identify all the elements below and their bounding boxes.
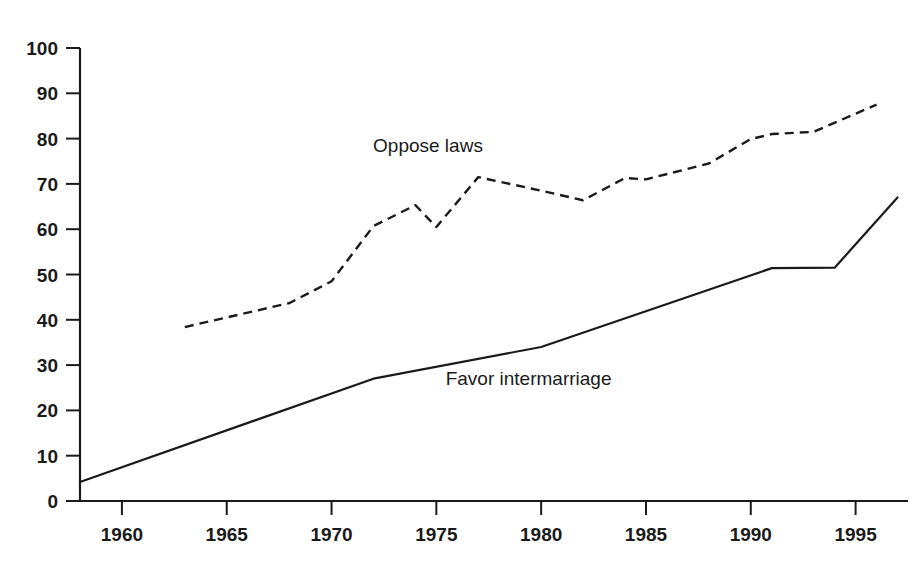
y-tick-label: 50 xyxy=(37,265,58,286)
y-tick-label: 70 xyxy=(37,174,58,195)
series-annotations: Oppose lawsFavor intermarriage xyxy=(373,135,611,389)
y-tick-label: 60 xyxy=(37,219,58,240)
series-line-favor-intermarriage xyxy=(80,197,898,481)
y-tick-label: 20 xyxy=(37,400,58,421)
series-line-oppose-laws xyxy=(185,105,877,327)
y-tick-labels: 0102030405060708090100 xyxy=(26,38,58,512)
y-tick-label: 40 xyxy=(37,310,58,331)
x-tick-labels: 19601965197019751980198519901995 xyxy=(101,524,877,545)
plot-area xyxy=(80,105,898,482)
x-tick-label: 1980 xyxy=(520,524,562,545)
x-tick-label: 1960 xyxy=(101,524,143,545)
x-tick-label: 1970 xyxy=(310,524,352,545)
x-tick-label: 1985 xyxy=(625,524,668,545)
x-tick-marks xyxy=(122,501,856,515)
y-tick-label: 10 xyxy=(37,446,58,467)
x-axis: 19601965197019751980198519901995 xyxy=(80,501,908,545)
x-tick-label: 1965 xyxy=(206,524,249,545)
y-axis: 0102030405060708090100 xyxy=(26,38,80,512)
line-chart: 0102030405060708090100 19601965197019751… xyxy=(0,0,916,564)
x-tick-label: 1990 xyxy=(730,524,772,545)
chart-page: 0102030405060708090100 19601965197019751… xyxy=(0,0,916,564)
series-annotation-label: Favor intermarriage xyxy=(446,368,612,389)
y-tick-label: 30 xyxy=(37,355,58,376)
y-tick-label: 90 xyxy=(37,83,58,104)
y-tick-marks xyxy=(66,48,80,501)
x-tick-label: 1975 xyxy=(415,524,458,545)
series-annotation-label: Oppose laws xyxy=(373,135,483,156)
y-tick-label: 0 xyxy=(47,491,58,512)
y-tick-label: 100 xyxy=(26,38,58,59)
x-tick-label: 1995 xyxy=(834,524,877,545)
y-tick-label: 80 xyxy=(37,129,58,150)
